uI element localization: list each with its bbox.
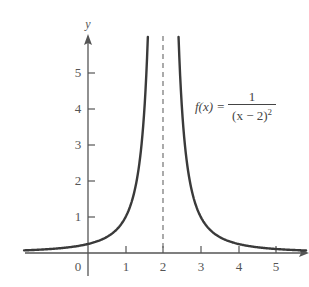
y-axis-label: y: [84, 17, 91, 31]
function-formula: f(x) = 1 (x − 2)2: [195, 90, 272, 123]
y-tick-label-2: 2: [75, 173, 82, 188]
formula-denominator-base: (x − 2): [232, 108, 268, 123]
formula-numerator: 1: [228, 90, 276, 105]
curve-right-branch: [179, 37, 307, 251]
y-ticks: [88, 73, 95, 217]
x-tick-label-3: 3: [198, 259, 205, 274]
x-tick-label-5: 5: [273, 259, 280, 274]
y-tick-label-1: 1: [75, 209, 82, 224]
y-tick-label-4: 4: [75, 101, 82, 116]
x-tick-label-4: 4: [236, 259, 243, 274]
curve-left-branch: [24, 37, 148, 250]
formula-fraction: 1 (x − 2)2: [232, 90, 272, 123]
formula-denominator: (x − 2)2: [232, 105, 272, 123]
x-tick-label-1: 1: [123, 259, 130, 274]
formula-lhs: f(x) =: [195, 99, 225, 115]
x-tick-label-2: 2: [160, 259, 167, 274]
x-tick-label-0: 0: [75, 259, 82, 274]
formula-exponent: 2: [268, 107, 273, 117]
y-tick-label-5: 5: [75, 65, 82, 80]
function-graph: 1 2 3 4 5 0 1 2 3 4 5 y: [0, 0, 309, 287]
y-tick-label-3: 3: [75, 137, 82, 152]
